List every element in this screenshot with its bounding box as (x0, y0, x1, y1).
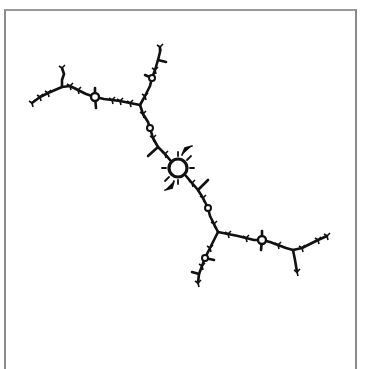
center-ring (169, 159, 187, 177)
fractal-rings (91, 75, 266, 261)
